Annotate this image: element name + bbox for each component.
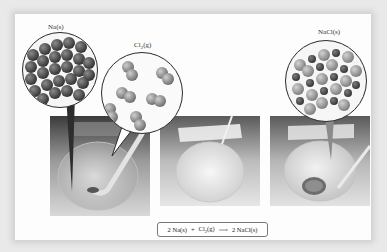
reaction-equation: 2 Na(s) + Cl2(g) ⟶ 2 NaCl(s) xyxy=(157,222,268,237)
reaction-arrow-icon: ⟶ xyxy=(219,226,228,234)
plus-sign: + xyxy=(191,226,195,233)
equation-product: 2 NaCl(s) xyxy=(232,226,257,233)
sodium-atom-model xyxy=(22,32,98,108)
chlorine-molecule-model xyxy=(101,52,183,134)
product-formula: NaCl(s) xyxy=(237,226,258,233)
equation-reactant2: Cl2(g) xyxy=(199,225,215,234)
product-coefficient: 2 xyxy=(232,226,235,233)
equation-reactant1: 2 Na(s) xyxy=(168,226,187,233)
reactant2-state: (g) xyxy=(207,225,215,232)
reactant1-coefficient: 2 xyxy=(168,226,171,233)
sodium-chloride-lattice-model xyxy=(285,40,367,122)
reactant1-formula: Na(s) xyxy=(172,226,186,233)
